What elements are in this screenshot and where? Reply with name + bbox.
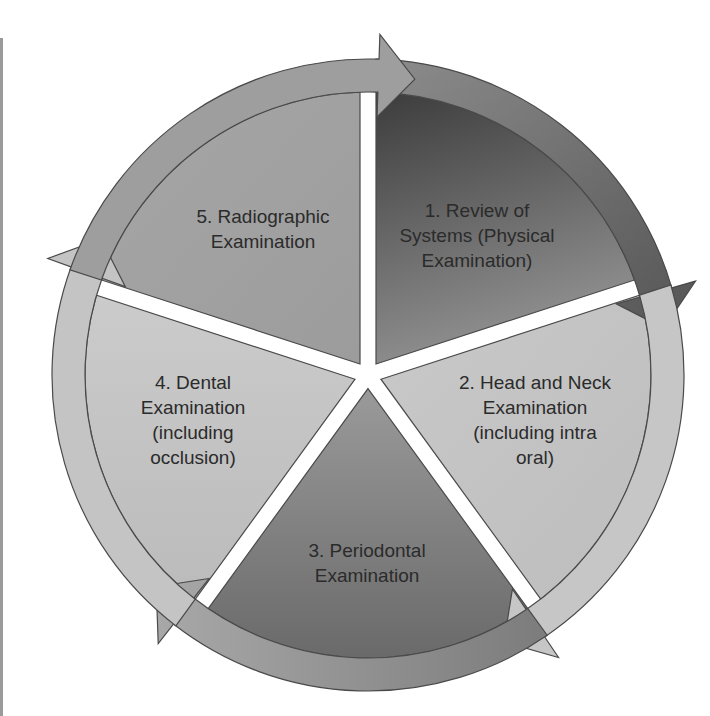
- step-2-label-line: 2. Head and Neck: [440, 370, 630, 395]
- step-4-label-line: Examination: [118, 395, 268, 420]
- step-1-label: 1. Review ofSystems (PhysicalExamination…: [392, 198, 562, 273]
- step-2-label: 2. Head and NeckExamination(including in…: [440, 370, 630, 470]
- step-5-label-line: Examination: [178, 229, 348, 254]
- step-3-label-line: Examination: [292, 563, 442, 588]
- step-4-label-line: occlusion): [118, 445, 268, 470]
- step-4-label: 4. DentalExamination(includingocclusion): [118, 370, 268, 470]
- step-3-label: 3. PeriodontalExamination: [292, 538, 442, 588]
- step-4-label-line: 4. Dental: [118, 370, 268, 395]
- step-2-label-line: oral): [440, 445, 630, 470]
- step-2-label-line: (including intra: [440, 420, 630, 445]
- cycle-diagram: [0, 0, 710, 716]
- step-4-label-line: (including: [118, 420, 268, 445]
- step-2-label-line: Examination: [440, 395, 630, 420]
- step-5-label: 5. RadiographicExamination: [178, 204, 348, 254]
- step-1-label-line: Systems (Physical: [392, 223, 562, 248]
- step-3-label-line: 3. Periodontal: [292, 538, 442, 563]
- step-5-label-line: 5. Radiographic: [178, 204, 348, 229]
- step-1-label-line: 1. Review of: [392, 198, 562, 223]
- step-1-label-line: Examination): [392, 248, 562, 273]
